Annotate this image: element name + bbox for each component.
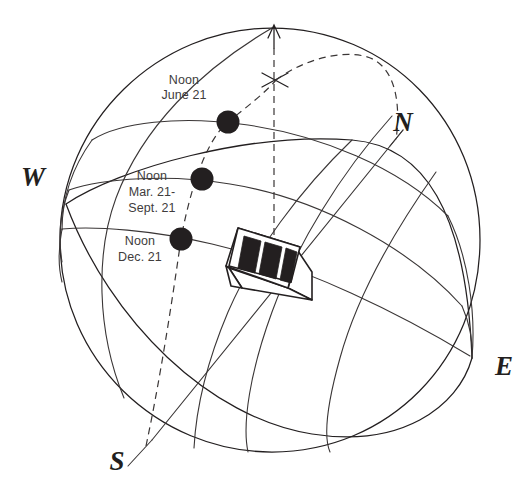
label-noon-june-21-line2: June 21: [161, 88, 206, 102]
label-noon-dec-21-line1: Noon: [125, 234, 155, 248]
label-noon-dec-21-line2: Dec. 21: [118, 250, 162, 264]
sun-path-figure: Noon June 21 Noon Mar. 21- Sept. 21 Noon…: [0, 0, 530, 483]
noon-labels-group: Noon June 21 Noon Mar. 21- Sept. 21 Noon…: [118, 73, 206, 264]
sun-dot-equinox: [191, 168, 214, 191]
zenith-axis-group: [262, 25, 288, 262]
compass-label-south: S: [109, 446, 124, 476]
label-noon-june-21-line1: Noon: [169, 73, 199, 87]
sun-dot-dec-21: [170, 228, 193, 251]
sun-dot-june-21: [217, 111, 240, 134]
south-extension: [128, 440, 152, 466]
sun-dots-group: [170, 111, 240, 251]
hour-arc-east-1: [448, 216, 473, 358]
compass-label-west: W: [21, 162, 47, 192]
label-noon-equinox-line1: Noon: [137, 169, 167, 183]
hour-arc-4: [327, 172, 436, 452]
label-noon-equinox-line3: Sept. 21: [128, 201, 175, 215]
label-noon-equinox-line2: Mar. 21-: [129, 185, 176, 199]
sky-dome-svg: Noon June 21 Noon Mar. 21- Sept. 21 Noon…: [0, 0, 530, 483]
zenith-cross-mark: [262, 73, 288, 87]
compass-label-north: N: [392, 107, 414, 137]
back-meridian-dashed: [276, 54, 398, 140]
compass-label-east: E: [494, 351, 513, 381]
